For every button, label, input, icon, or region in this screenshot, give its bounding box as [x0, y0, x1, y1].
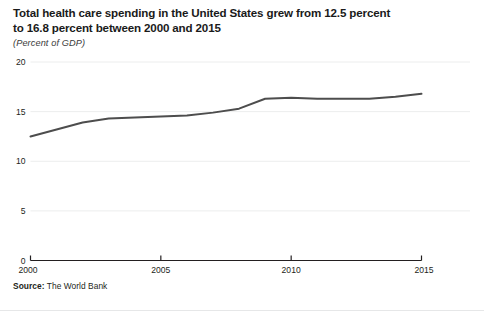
series-line-0: [31, 94, 422, 137]
y-tick-label-15: 15: [16, 107, 26, 117]
chart-gridlines: [31, 62, 471, 211]
y-tick-label-5: 5: [21, 206, 26, 216]
x-tick-label-2015: 2015: [414, 265, 433, 275]
x-tick-label-2010: 2010: [282, 265, 301, 275]
x-tick-label-2005: 2005: [151, 265, 170, 275]
y-tick-label-10: 10: [16, 156, 26, 166]
chart-source: Source: The World Bank: [13, 281, 107, 291]
chart-data-line: [31, 94, 422, 137]
chart-x-tick-labels: 2000200520102015: [19, 265, 434, 275]
chart-x-axis: [31, 256, 422, 261]
chart-source-value: The World Bank: [45, 281, 108, 291]
x-tick-label-2000: 2000: [19, 265, 38, 275]
chart-y-tick-labels: 05101520: [16, 57, 26, 266]
y-tick-label-20: 20: [16, 57, 26, 67]
chart-plot-area: 05101520 2000200520102015: [0, 0, 484, 311]
chart-source-label: Source:: [13, 281, 45, 291]
chart-figure: Total health care spending in the United…: [0, 0, 484, 311]
